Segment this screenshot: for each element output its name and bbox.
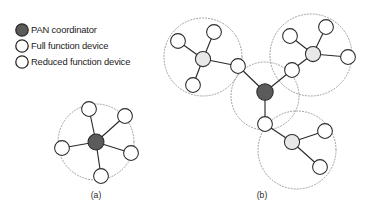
panel-caption-a: (a) (91, 190, 102, 200)
panel-captions: (a)(b) (91, 190, 268, 200)
diagram-a-star-topology (55, 102, 139, 184)
full-function-device-node-b-h2 (305, 46, 320, 61)
legend-label-full-function: Full function device (31, 40, 108, 51)
legend-item-pan-coordinator: PAN coordinator (16, 24, 97, 36)
reduced-function-device-node-b-h1b (207, 25, 222, 40)
reduced-function-device-node-a-n1 (82, 102, 97, 117)
diagram-a-nodes (55, 102, 139, 184)
reduced-function-device-node-b-h1a (171, 34, 186, 49)
diagram-b-cluster-tree-topology (164, 14, 355, 189)
reduced-function-device-node-b-h3b (313, 160, 328, 175)
reduced-function-device-node-b-h2b (319, 20, 334, 35)
legend-marker-open-circle-icon (16, 40, 28, 52)
reduced-function-device-node-b-h2c (341, 50, 356, 65)
reduced-function-device-node-b-h1c (186, 78, 201, 93)
legend-marker-open-circle-icon (16, 56, 28, 68)
reduced-function-device-node-a-n2 (118, 109, 133, 124)
pan-coordinator-node-b-pan (257, 84, 273, 100)
reduced-function-device-node-b-h2a (283, 29, 298, 44)
legend-marker-filled-dark-circle-icon (16, 24, 28, 36)
legend-item-reduced-function: Reduced function device (16, 56, 130, 68)
reduced-function-device-node-b-r1 (231, 59, 246, 74)
figure-root: PAN coordinatorFull function deviceReduc… (0, 0, 371, 216)
legend-label-pan-coordinator: PAN coordinator (31, 24, 97, 35)
reduced-function-device-node-a-n3 (124, 146, 139, 161)
legend: PAN coordinatorFull function deviceReduc… (16, 24, 130, 68)
diagram-b-nodes (171, 20, 356, 175)
full-function-device-node-b-h1 (195, 51, 210, 66)
reduced-function-device-node-b-r2 (285, 63, 300, 78)
pan-coordinator-node-a-pan (88, 134, 104, 150)
reduced-function-device-node-b-r3 (258, 117, 273, 132)
reduced-function-device-node-a-n5 (55, 141, 70, 156)
network-topology-figure: PAN coordinatorFull function deviceReduc… (0, 0, 371, 216)
reduced-function-device-node-b-h3a (318, 124, 333, 139)
legend-label-reduced-function: Reduced function device (31, 56, 130, 67)
reduced-function-device-node-a-n4 (94, 169, 109, 184)
panel-caption-b: (b) (257, 190, 268, 200)
legend-item-full-function: Full function device (16, 40, 108, 52)
full-function-device-node-b-h3 (284, 134, 299, 149)
